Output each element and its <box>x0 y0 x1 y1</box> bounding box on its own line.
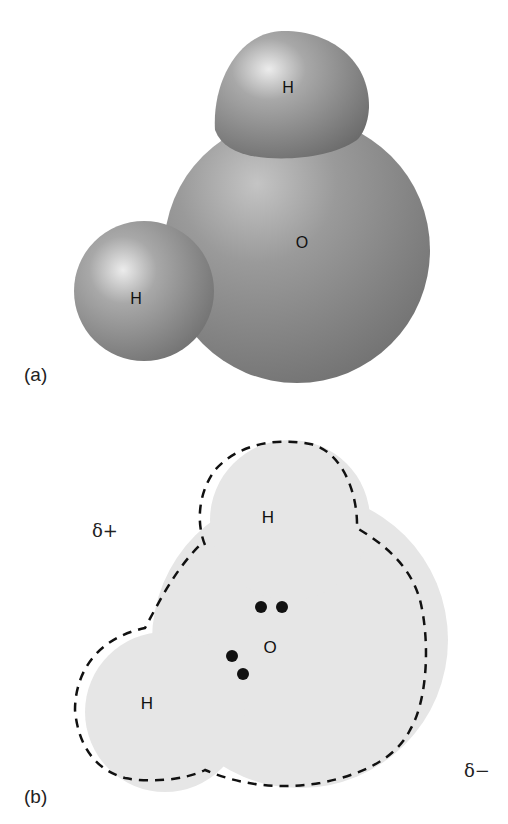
hydrogen-cloud-left <box>85 632 245 792</box>
partial-positive-charge: δ+ <box>92 520 118 541</box>
panel-a-model: H O H <box>74 31 430 383</box>
atom-label-o: O <box>296 234 308 251</box>
atom-label-h-top: H <box>282 79 294 96</box>
electron-dot <box>226 650 238 662</box>
electron-dot <box>276 601 288 613</box>
electron-dot <box>237 668 249 680</box>
panel-a-label: (a) <box>24 364 47 386</box>
partial-negative-charge: δ− <box>464 760 490 781</box>
atom-label-h-left-b: H <box>141 694 153 713</box>
atom-label-h-left: H <box>130 290 142 307</box>
hydrogen-cloud-top <box>210 440 370 600</box>
panel-b-label: (b) <box>24 786 47 808</box>
electron-dot <box>255 601 267 613</box>
hydrogen-sphere-left <box>74 221 214 361</box>
water-molecule-figure: H O H H O H <box>0 0 508 824</box>
panel-b-cloud: H O H <box>75 440 448 792</box>
atom-label-o-b: O <box>263 638 276 657</box>
atom-label-h-top-b: H <box>262 508 274 527</box>
